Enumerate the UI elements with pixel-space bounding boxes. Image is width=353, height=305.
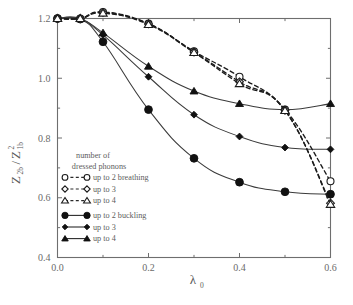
legend-entry-open-diamond[interactable]: up to 3 xyxy=(62,185,116,194)
legend-entry-filled-circle[interactable]: up to 2 buckling xyxy=(62,211,147,220)
x-tick-label: 0.2 xyxy=(142,262,155,273)
marker-filled-diamond xyxy=(62,224,68,230)
marker-filled-circle xyxy=(190,154,198,162)
y-tick-label: 0.4 xyxy=(38,252,51,263)
marker-filled-diamond xyxy=(84,224,90,230)
figure-container: 0.00.20.40.60.40.60.81.01.2 number ofdre… xyxy=(0,0,353,305)
marker-filled-diamond xyxy=(327,146,334,153)
chart-legend: number ofdressed phononsup to 2 breathin… xyxy=(62,151,149,243)
marker-filled-circle xyxy=(281,188,289,196)
marker-filled-triangle xyxy=(327,100,335,107)
marker-open-circle xyxy=(84,175,90,181)
y-tick-label: 1.2 xyxy=(38,13,51,24)
legend-title-line1: number of xyxy=(76,151,110,160)
legend-entry-filled-triangle[interactable]: up to 4 xyxy=(62,234,116,243)
legend-entry-label: up to 4 xyxy=(93,196,116,205)
marker-open-diamond xyxy=(84,186,90,192)
y-tick-label: 1.0 xyxy=(38,73,51,84)
axis-tick-labels: 0.00.20.40.60.40.60.81.01.2 xyxy=(38,13,337,272)
y-axis-denominator-subscript: 1b xyxy=(16,142,25,150)
y-tick-label: 0.8 xyxy=(38,133,51,144)
marker-filled-circle xyxy=(62,212,68,218)
legend-entry-open-triangle[interactable]: up to 4 xyxy=(62,196,116,205)
series-filled-diamond xyxy=(54,15,334,153)
y-axis-numerator-subscript: 2b xyxy=(16,167,25,175)
marker-open-circle xyxy=(327,178,334,185)
legend-entry-label: up to 3 xyxy=(93,223,116,232)
y-tick-label: 0.6 xyxy=(38,192,51,203)
marker-filled-diamond xyxy=(282,144,289,151)
legend-entry-label: up to 3 xyxy=(93,185,116,194)
y-axis-divider: / xyxy=(8,161,23,165)
marker-open-triangle xyxy=(84,197,91,203)
marker-filled-circle xyxy=(236,178,244,186)
marker-filled-triangle xyxy=(145,63,153,70)
series-filled-triangle xyxy=(54,15,335,113)
x-tick-label: 0.4 xyxy=(233,262,246,273)
marker-filled-diamond xyxy=(191,111,198,118)
marker-filled-diamond xyxy=(236,133,243,140)
x-tick-label: 0.0 xyxy=(51,262,64,273)
series-path xyxy=(58,17,331,149)
x-axis-title: λ0 xyxy=(190,272,204,290)
legend-entry-label: up to 4 xyxy=(93,234,116,243)
marker-filled-circle xyxy=(84,212,90,218)
x-axis-title-text: λ xyxy=(190,272,197,287)
marker-open-diamond xyxy=(62,186,68,192)
legend-entry-open-circle[interactable]: up to 2 breathing xyxy=(62,173,149,182)
legend-title-line2: dressed phonons xyxy=(72,162,126,171)
y-axis-numerator: Z xyxy=(8,176,23,184)
legend-entry-label: up to 2 breathing xyxy=(93,173,149,182)
x-tick-label: 0.6 xyxy=(324,262,337,273)
legend-entry-filled-diamond[interactable]: up to 3 xyxy=(62,223,116,232)
marker-filled-triangle xyxy=(190,87,198,94)
legend-entry-label: up to 2 buckling xyxy=(93,211,146,220)
series-filled-circle xyxy=(54,15,335,198)
marker-filled-circle xyxy=(145,106,153,114)
y-axis-denominator: Z xyxy=(8,151,23,159)
y-axis-denominator-superscript: 2 xyxy=(7,146,16,150)
chart-canvas: 0.00.20.40.60.40.60.81.01.2 number ofdre… xyxy=(0,0,353,305)
marker-filled-circle xyxy=(99,38,107,46)
marker-open-circle xyxy=(62,175,68,181)
y-axis-title: Z2b/Z1b2 xyxy=(7,142,25,184)
x-axis-title-subscript: 0 xyxy=(200,281,204,290)
